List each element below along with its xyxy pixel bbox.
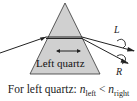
output-arrowhead-L bbox=[127, 47, 135, 52]
relation-symbol: < bbox=[96, 83, 108, 95]
caption: For left quartz: nleft < nright bbox=[0, 83, 137, 98]
prism-label: Left quartz bbox=[36, 57, 85, 69]
n-left-subscript: left bbox=[85, 89, 96, 98]
output-beam-L bbox=[82, 37, 134, 51]
caption-prefix: For left quartz: bbox=[8, 83, 80, 95]
beam-label-L: L bbox=[114, 24, 120, 35]
incident-arrowhead bbox=[40, 37, 46, 41]
beam-label-R: R bbox=[116, 66, 122, 77]
incident-beam bbox=[0, 37, 46, 53]
n-right-subscript: right bbox=[114, 89, 129, 98]
